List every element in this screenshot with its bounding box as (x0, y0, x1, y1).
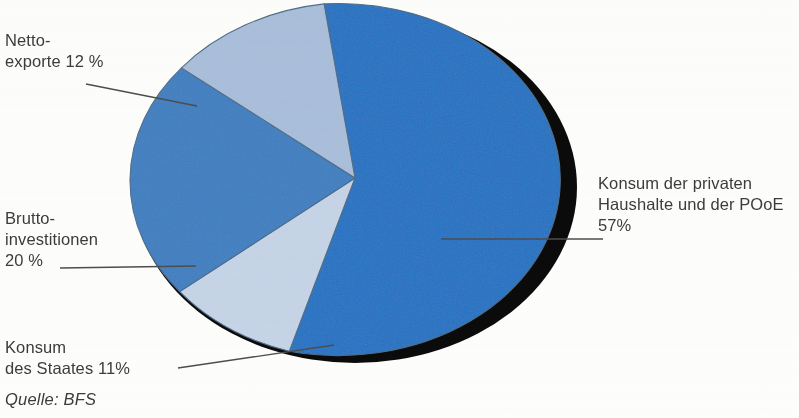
pie-slices (130, 4, 560, 356)
source-note: Quelle: BFS (5, 390, 96, 409)
slice-label-netto-exporte: Netto- exporte 12 % (5, 30, 175, 72)
slice-label-konsum-staat: Konsum des Staates 11% (5, 337, 195, 379)
figure-canvas: Netto- exporte 12 % Brutto- investitione… (0, 0, 799, 418)
slice-label-konsum-privat: Konsum der privaten Haushalte und der PO… (598, 173, 798, 236)
slice-label-brutto-investitionen: Brutto- investitionen 20 % (5, 208, 180, 271)
